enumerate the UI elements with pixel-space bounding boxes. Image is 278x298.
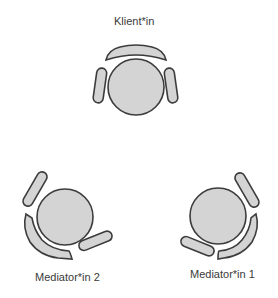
mediator2-label: Mediator*in 2 [35,271,100,283]
mediator1-label: Mediator*in 1 [190,268,255,280]
mediator2-seat-group [21,170,113,259]
mediator1-seat [190,188,246,244]
client-armrest-right [164,67,179,103]
seating-diagram [0,0,278,298]
client-seat [108,59,164,115]
client-seat-group [93,45,179,115]
mediator2-seat [37,189,93,245]
client-label: Klient*in [114,15,154,27]
mediator1-seat-group [179,171,260,259]
client-backrest [106,45,166,60]
client-armrest-left [93,67,108,103]
